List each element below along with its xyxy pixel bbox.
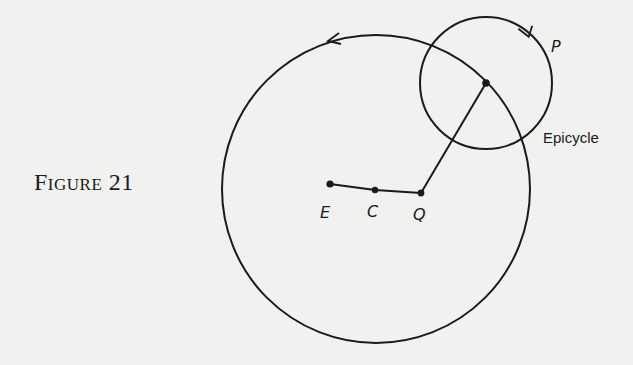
label-p: P [551, 37, 561, 56]
label-c: C [367, 202, 379, 221]
radius-line [421, 83, 486, 193]
label-e: E [320, 203, 331, 222]
epicycle-diagram: E C Q P Epicycle [0, 0, 633, 365]
epicycle-label: Epicycle [543, 129, 599, 146]
label-q: Q [413, 205, 426, 224]
point-q [418, 190, 425, 197]
figure-page: Figure 21 E C Q P Epicycle [0, 0, 633, 365]
point-epicycle-center [482, 79, 490, 87]
point-e [326, 180, 333, 187]
point-c [372, 187, 378, 193]
